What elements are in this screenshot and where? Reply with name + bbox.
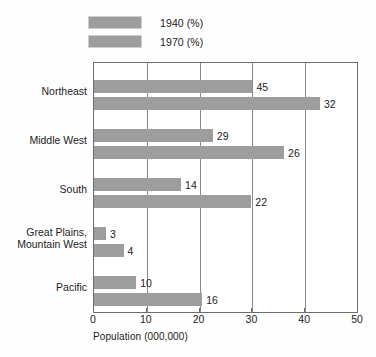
plot-area: 45 32 29 26 14 22 [93,62,358,313]
legend-item-1970: 1970 (%) [88,34,203,49]
bar-chart: 1940 (%) 1970 (%) Northeast Middle West … [0,0,376,357]
legend-label-1940: 1940 (%) [160,17,203,29]
bar-value-pacific-1940: 10 [140,277,152,289]
bar-northeast-1970 [94,97,320,110]
category-label-pacific: Pacific [56,282,87,294]
category-label-northeast: Northeast [41,86,87,98]
bar-great-plains-1940 [94,227,106,240]
bar-middle-west-1940 [94,129,213,142]
bar-value-south-1940: 14 [185,179,197,191]
x-tick-0: 0 [90,313,96,325]
x-tick-30: 30 [246,313,258,325]
x-tick-40: 40 [298,313,310,325]
bar-value-northeast-1970: 32 [324,98,336,110]
bar-south-1970 [94,195,251,208]
x-tick-mark-40 [304,308,305,313]
bar-value-great-plains-1940: 3 [110,228,116,240]
category-label-middle-west: Middle West [29,135,87,147]
x-tick-10: 10 [140,313,152,325]
x-axis-title: Population (000,000) [93,331,188,342]
chart-legend: 1940 (%) 1970 (%) [88,15,203,53]
x-tick-mark-50 [357,308,358,313]
bar-middle-west-1970 [94,146,284,159]
bar-great-plains-1970 [94,244,124,257]
legend-item-1940: 1940 (%) [88,15,203,30]
bar-south-1940 [94,178,181,191]
bar-pacific-1940 [94,276,136,289]
bar-northeast-1940 [94,80,252,93]
legend-swatch-1940 [88,16,142,29]
bar-value-south-1970: 22 [255,196,267,208]
x-tick-mark-30 [251,308,252,313]
bar-series-container: 45 32 29 26 14 22 [94,63,357,312]
bar-pacific-1970 [94,293,202,306]
bar-value-great-plains-1970: 4 [128,245,134,257]
legend-swatch-1970 [88,35,142,48]
bar-value-pacific-1970: 16 [206,294,218,306]
category-label-great-plains-mountain-west: Great Plains, Mountain West [17,227,87,250]
bar-value-northeast-1940: 45 [256,81,268,93]
x-tick-20: 20 [193,313,205,325]
bar-value-middle-west-1940: 29 [217,130,229,142]
x-tick-mark-0 [93,308,94,313]
legend-label-1970: 1970 (%) [160,36,203,48]
category-label-south: South [60,184,87,196]
x-tick-50: 50 [351,313,363,325]
x-tick-mark-20 [199,308,200,313]
x-axis: 0 10 20 30 40 50 [93,313,358,327]
x-tick-mark-10 [146,308,147,313]
bar-value-middle-west-1970: 26 [288,147,300,159]
